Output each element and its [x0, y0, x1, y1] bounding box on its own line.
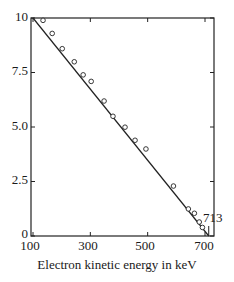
fit-line	[33, 18, 209, 236]
endpoint-annotation: 713	[203, 210, 223, 226]
x-tick-label-700: 700	[186, 238, 222, 254]
y-tick-label-2.5: 2.5	[0, 172, 28, 188]
x-tick-label-100: 100	[12, 238, 48, 254]
y-tick-label-5.0: 5.0	[0, 118, 28, 134]
y-tick-label-10: 10	[0, 9, 28, 25]
x-tick-label-500: 500	[127, 238, 163, 254]
x-tick-label-300: 300	[70, 238, 106, 254]
x-axis-label: Electron kinetic energy in keV	[0, 257, 234, 273]
data-points	[41, 18, 205, 230]
y-tick-label-7.5: 7.5	[0, 63, 28, 79]
